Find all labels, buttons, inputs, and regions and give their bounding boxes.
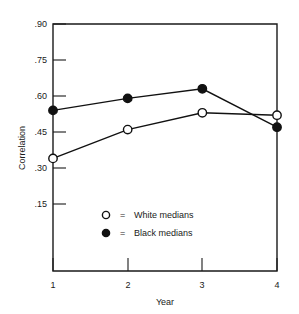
x-tick-label-1: 1	[50, 280, 55, 290]
legend-equals-black: =	[120, 228, 125, 238]
y-axis-title: Correlation	[17, 126, 27, 170]
data-point-black-medians-year-1	[49, 106, 57, 114]
data-point-black-medians-year-3	[198, 85, 206, 93]
legend-equals-white: =	[120, 210, 125, 220]
legend-label-black-medians: Black medians	[134, 228, 193, 238]
x-tick-label-2: 2	[125, 280, 130, 290]
x-axis-title: Year	[156, 297, 174, 307]
legend-filled-circle-icon	[102, 229, 109, 236]
legend-open-circle-icon	[102, 211, 109, 218]
legend-label-white-medians: White medians	[134, 210, 194, 220]
chart-figure: .90 .75 .60 .45 .30 .15 Correlation 1 2 …	[0, 0, 299, 314]
data-point-white-medians-year-1	[49, 154, 57, 162]
data-point-white-medians-year-2	[123, 125, 131, 133]
correlation-line-chart: .90 .75 .60 .45 .30 .15 Correlation 1 2 …	[0, 0, 299, 314]
y-tick-label-75: .75	[34, 55, 47, 65]
data-point-black-medians-year-4	[273, 123, 281, 131]
data-point-black-medians-year-2	[123, 94, 131, 102]
chart-background	[0, 0, 299, 314]
y-tick-label-30: .30	[34, 163, 47, 173]
data-point-white-medians-year-4	[273, 111, 281, 119]
y-tick-label-60: .60	[34, 91, 47, 101]
x-tick-label-3: 3	[199, 280, 204, 290]
y-tick-label-15: .15	[34, 199, 47, 209]
x-tick-label-4: 4	[274, 280, 279, 290]
y-tick-label-45: .45	[34, 127, 47, 137]
y-tick-label-90: .90	[34, 19, 47, 29]
data-point-white-medians-year-3	[198, 109, 206, 117]
